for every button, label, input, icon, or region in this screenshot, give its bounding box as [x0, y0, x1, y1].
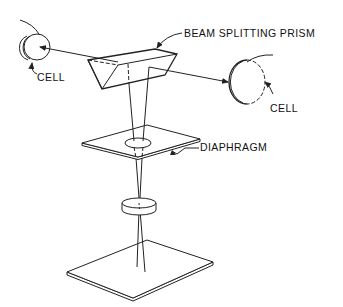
left-cell-label: CELL	[37, 71, 65, 83]
left-cell	[19, 20, 50, 74]
beam-splitting-prism	[88, 49, 177, 89]
prism-label: BEAM SPLITTING PRISM	[184, 27, 315, 39]
right-cell-leader	[265, 82, 273, 94]
diaphragm	[82, 125, 200, 160]
base-plate	[67, 240, 213, 301]
lens	[122, 198, 156, 215]
optical-diagram: BEAM SPLITTING PRISM CELL CELL DIAPHRAGM	[0, 0, 343, 307]
left-cell-wire	[20, 20, 39, 34]
right-cell-wire	[247, 55, 273, 62]
diagram-svg: BEAM SPLITTING PRISM CELL CELL DIAPHRAGM	[0, 0, 343, 307]
beam-middle	[136, 158, 142, 198]
right-cell-label: CELL	[270, 102, 298, 114]
prism-leader	[157, 33, 182, 48]
beam-right	[165, 70, 228, 82]
beam-left	[40, 47, 118, 62]
diaphragm-label: DIAPHRAGM	[200, 141, 267, 153]
right-cell	[229, 55, 273, 104]
